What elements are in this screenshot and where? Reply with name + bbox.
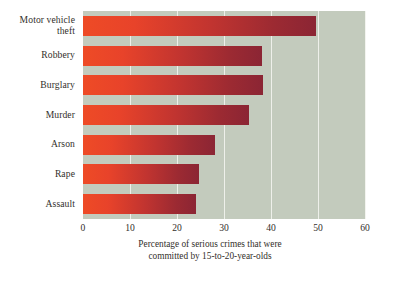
x-tick-label-50: 50 [313, 222, 323, 233]
category-label-line: Murder [0, 110, 75, 121]
x-tick-label-40: 40 [266, 222, 276, 233]
bar-fill [83, 75, 263, 95]
gridline-60 [365, 11, 366, 219]
category-label-robbery: Robbery [0, 50, 79, 61]
x-axis-caption: Percentage of serious crimes that were c… [60, 238, 360, 262]
bar-rape [83, 164, 199, 184]
category-label-arson: Arson [0, 139, 79, 150]
category-label-burglary: Burglary [0, 80, 79, 91]
y-axis-category-labels: Motor vehicletheftRobberyBurglaryMurderA… [0, 11, 79, 219]
category-label-assault: Assault [0, 199, 79, 210]
x-tick-label-10: 10 [125, 222, 135, 233]
bar-fill [83, 194, 196, 214]
x-tick-label-60: 60 [360, 222, 370, 233]
bar-fill [83, 135, 215, 155]
category-label-motor-vehicle-theft: Motor vehicletheft [0, 15, 79, 36]
category-label-line: theft [0, 26, 75, 37]
bar-fill [83, 16, 316, 36]
category-label-line: Rape [0, 169, 75, 180]
bar-chart-figure: Motor vehicletheftRobberyBurglaryMurderA… [0, 0, 393, 284]
x-tick-label-30: 30 [219, 222, 229, 233]
category-label-murder: Murder [0, 110, 79, 121]
bar-robbery [83, 46, 262, 66]
category-label-line: Arson [0, 139, 75, 150]
caption-line-1: Percentage of serious crimes that were [60, 238, 360, 250]
bar-series [83, 11, 365, 219]
bar-arson [83, 135, 215, 155]
bar-burglary [83, 75, 263, 95]
category-label-line: Burglary [0, 80, 75, 91]
category-label-line: Assault [0, 199, 75, 210]
bar-motor-vehicle-theft [83, 16, 316, 36]
plot-area [83, 11, 365, 219]
category-label-line: Robbery [0, 50, 75, 61]
x-axis: 0102030405060 [83, 219, 365, 237]
bar-fill [83, 164, 199, 184]
bar-murder [83, 105, 249, 125]
category-label-rape: Rape [0, 169, 79, 180]
bar-assault [83, 194, 196, 214]
caption-line-2: committed by 15-to-20-year-olds [60, 250, 360, 262]
x-tick-label-0: 0 [81, 222, 86, 233]
x-tick-label-20: 20 [172, 222, 182, 233]
bar-fill [83, 105, 249, 125]
bar-fill [83, 46, 262, 66]
